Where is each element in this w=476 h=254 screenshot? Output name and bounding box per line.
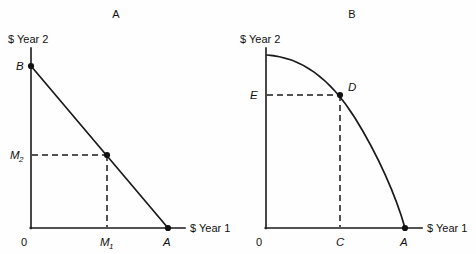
- panel-b-title: B: [348, 8, 356, 20]
- economics-figure: A $ Year 2 $ Year 1 0 B A M 1: [0, 0, 476, 254]
- panel-b-x-axis-label: $ Year 1: [427, 222, 467, 234]
- panel-a-title: A: [112, 8, 120, 20]
- panel-a-label-m1-subscript: 1: [109, 242, 113, 251]
- panel-a-point-bundle-dot: [104, 152, 110, 158]
- panel-a-label-b: B: [16, 60, 24, 72]
- panel-b-label-e: E: [250, 89, 258, 101]
- panel-b-label-c: C: [336, 236, 345, 248]
- figure-background: [0, 0, 476, 254]
- panel-a-point-a-dot: [165, 225, 171, 231]
- panel-b-origin-label: 0: [256, 236, 262, 248]
- panel-a-x-axis-label: $ Year 1: [190, 222, 230, 234]
- panel-b-label-a: A: [399, 236, 408, 248]
- panel-a-label-a: A: [162, 236, 171, 248]
- panel-b-y-axis-label: $ Year 2: [240, 33, 280, 45]
- panel-a-point-b-dot: [28, 63, 34, 69]
- panel-a-label-m2-subscript: 2: [18, 155, 24, 164]
- panel-a-origin-label: 0: [21, 236, 27, 248]
- panel-b-point-d-dot: [337, 92, 343, 98]
- panel-a-y-axis-label: $ Year 2: [8, 33, 48, 45]
- panel-b-point-a-dot: [402, 225, 408, 231]
- figure-container: A $ Year 2 $ Year 1 0 B A M 1: [0, 0, 476, 254]
- panel-b-label-d: D: [348, 81, 356, 93]
